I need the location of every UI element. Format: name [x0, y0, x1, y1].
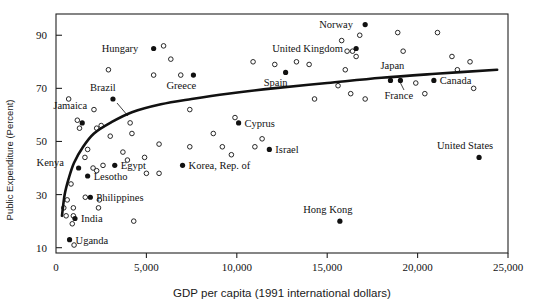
- data-point-open: [96, 206, 101, 211]
- data-point-open: [71, 206, 76, 211]
- data-point-open: [413, 81, 418, 86]
- data-point-open: [157, 171, 162, 176]
- label-united-states: United States: [437, 140, 493, 151]
- label-kenya: Kenya: [37, 157, 65, 168]
- label-hong-kong: Hong Kong: [303, 204, 353, 215]
- data-point-open: [75, 118, 80, 123]
- data-point-hong-kong: [337, 219, 342, 224]
- data-point-open: [108, 134, 113, 139]
- label-france: France: [384, 90, 413, 101]
- label-israel: Israel: [275, 144, 298, 155]
- label-spain: Spain: [264, 77, 289, 88]
- data-point-open: [357, 33, 362, 38]
- data-point-open: [64, 214, 69, 219]
- data-point-open: [251, 60, 256, 65]
- data-point-open: [65, 198, 70, 203]
- data-point-open: [83, 195, 88, 200]
- data-point-lesotho: [85, 173, 90, 178]
- data-point-korea-rep-of: [180, 163, 185, 168]
- data-point-brazil: [110, 96, 115, 101]
- data-point-cyprus: [236, 120, 241, 125]
- data-point-open: [121, 150, 126, 155]
- data-point-open: [312, 97, 317, 102]
- x-tick-label: 0: [53, 261, 59, 273]
- x-axis-title: GDP per capita (1991 international dolla…: [173, 287, 391, 299]
- label-cyprus: Cyprus: [245, 118, 275, 129]
- label-korea-rep-of: Korea, Rep. of: [189, 160, 251, 171]
- data-point-open: [83, 155, 88, 160]
- y-tick-label: 50: [36, 135, 48, 147]
- data-point-israel: [267, 147, 272, 152]
- data-point-open: [307, 62, 312, 67]
- data-point-open: [354, 54, 359, 59]
- data-point-open: [423, 91, 428, 96]
- data-point-open: [144, 171, 149, 176]
- data-point-united-kingdom: [354, 46, 359, 51]
- label-norway: Norway: [319, 19, 354, 30]
- data-point-open: [85, 147, 90, 152]
- data-point-united-states: [476, 155, 481, 160]
- y-tick-label: 30: [36, 189, 48, 201]
- data-point-open: [468, 60, 473, 65]
- label-hungary: Hungary: [102, 43, 139, 54]
- data-point-open: [161, 44, 166, 49]
- label-united-kingdom: United Kingdom: [272, 43, 343, 54]
- data-point-open: [363, 97, 368, 102]
- data-point-open: [106, 67, 111, 72]
- label-greece: Greece: [167, 80, 197, 91]
- data-point-egypt: [112, 163, 117, 168]
- data-point-open: [157, 142, 162, 147]
- data-point-open: [260, 137, 265, 142]
- x-tick-label: 15,000: [312, 261, 343, 273]
- data-point-canada: [431, 78, 436, 83]
- data-point-hungary: [151, 46, 156, 51]
- data-point-open: [169, 57, 174, 62]
- data-point-france: [388, 78, 393, 83]
- label-leader-line: [117, 103, 128, 116]
- y-axis-title: Public Expenditure (Percent): [4, 100, 15, 221]
- data-point-open: [395, 30, 400, 35]
- data-point-open: [294, 60, 299, 65]
- data-point-open: [471, 86, 476, 91]
- data-point-open: [435, 30, 440, 35]
- data-point-open: [128, 121, 133, 126]
- data-point-open: [272, 62, 277, 67]
- y-tick-label: 70: [36, 82, 48, 94]
- label-brazil: Brazil: [90, 82, 116, 93]
- scatter-plot-figure: 05,00010,00015,00020,00025,000 103050709…: [0, 0, 539, 308]
- data-point-open: [348, 91, 353, 96]
- label-philippines: Philippines: [96, 192, 143, 203]
- label-jamaica: Jamaica: [53, 100, 87, 111]
- data-point-open: [450, 54, 455, 59]
- data-point-open: [92, 107, 97, 112]
- point-labels: UgandaIndiaPhilippinesLesothoKenyaEgyptK…: [37, 19, 494, 246]
- x-tick-label: 20,000: [402, 261, 433, 273]
- data-point-kenya: [76, 165, 81, 170]
- label-canada: Canada: [440, 75, 472, 86]
- chart-canvas: 05,00010,00015,00020,00025,000 103050709…: [0, 0, 539, 308]
- x-axis-ticks: 05,00010,00015,00020,00025,000: [53, 253, 523, 273]
- y-tick-label: 10: [36, 242, 48, 254]
- data-point-india: [72, 216, 77, 221]
- label-india: India: [81, 213, 103, 224]
- data-point-jamaica: [80, 120, 85, 125]
- y-axis-ticks: 1030507090: [36, 29, 62, 253]
- data-point-open: [130, 131, 135, 136]
- data-point-open: [178, 73, 183, 78]
- data-point-open: [187, 107, 192, 112]
- data-point-philippines: [88, 195, 93, 200]
- data-point-open: [343, 67, 348, 72]
- x-tick-label: 5,000: [134, 261, 159, 273]
- data-point-greece: [191, 72, 196, 77]
- data-point-open: [211, 131, 216, 136]
- data-point-open: [336, 83, 341, 88]
- data-point-open: [229, 152, 234, 157]
- data-point-uganda: [67, 237, 72, 242]
- data-point-open: [220, 144, 225, 149]
- data-points: [61, 22, 481, 247]
- data-point-open: [131, 219, 136, 224]
- label-japan: Japan: [380, 60, 405, 71]
- data-point-open: [187, 144, 192, 149]
- label-uganda: Uganda: [76, 235, 109, 246]
- x-tick-label: 25,000: [493, 261, 524, 273]
